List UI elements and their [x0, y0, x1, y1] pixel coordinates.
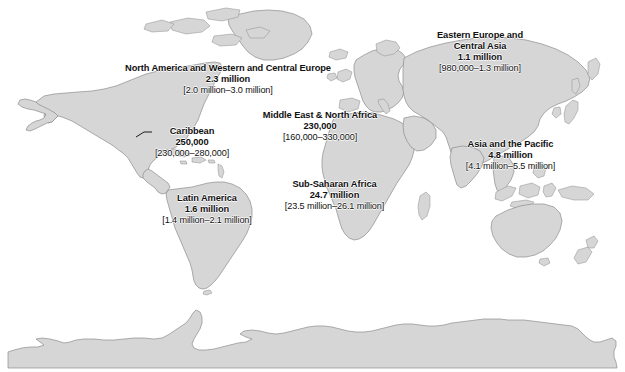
landmass-new-zealand-south	[574, 247, 592, 264]
region-value: 1.1 million	[396, 52, 564, 63]
region-name: Asia and the Pacific	[428, 139, 593, 150]
landmass-antarctica	[8, 310, 617, 368]
region-name: North America and Western and Central Eu…	[108, 63, 348, 74]
region-range: [2.0 million–3.0 million]	[108, 85, 348, 96]
region-name: Caribbean	[126, 126, 258, 137]
region-name-line1: Eastern Europe and	[396, 30, 564, 41]
landmass-madagascar	[418, 192, 430, 220]
landmass-borneo	[519, 183, 540, 198]
landmass-puerto-rico	[208, 160, 215, 163]
landmass-sulawesi	[543, 183, 556, 197]
region-range: [980,000–1.3 million]	[396, 63, 564, 74]
region-range: [1.4 million–2.1 million]	[134, 215, 280, 226]
region-range: [230,000–280,000]	[126, 148, 258, 159]
region-value: 230,000	[240, 121, 400, 132]
region-label-north-america-western-central-europe: North America and Western and Central Eu…	[108, 63, 348, 96]
landmass-central-america	[143, 169, 170, 194]
region-name: Middle East & North Africa	[240, 110, 400, 121]
region-label-latin-america: Latin America 1.6 million [1.4 million–2…	[134, 193, 280, 226]
landmass-iceland	[329, 49, 348, 60]
landmass-japan	[564, 100, 578, 124]
landmass-tasmania	[539, 258, 550, 266]
landmass-new-guinea	[558, 186, 594, 200]
region-name-line2: Central Asia	[396, 41, 564, 52]
region-name: Sub-Saharan Africa	[253, 179, 416, 190]
landmass-arctic-island-4	[144, 20, 174, 32]
region-label-middle-east-north-africa: Middle East & North Africa 230,000 [160,…	[240, 110, 400, 143]
landmass-kamchatka	[588, 58, 600, 80]
region-label-caribbean: Caribbean 250,000 [230,000–280,000]	[126, 126, 258, 159]
region-range: [160,000–330,000]	[240, 132, 400, 143]
landmass-korea	[552, 107, 561, 118]
landmass-australia	[491, 204, 562, 257]
landmass-arctic-island-1	[170, 18, 210, 34]
region-label-eastern-europe-central-asia: Eastern Europe and Central Asia 1.1 mill…	[396, 30, 564, 74]
landmass-tierra-del-fuego	[203, 290, 212, 295]
region-name: Latin America	[134, 193, 280, 204]
region-value: 2.3 million	[108, 74, 348, 85]
landmass-lesser-antilles	[218, 164, 224, 178]
region-value: 1.6 million	[134, 204, 280, 215]
landmass-new-zealand-north	[586, 236, 598, 248]
region-range: [4.1 million–5.5 million]	[428, 161, 593, 172]
region-label-asia-and-the-pacific: Asia and the Pacific 4.8 million [4.1 mi…	[428, 139, 593, 172]
landmass-jamaica	[180, 161, 187, 164]
region-value: 250,000	[126, 137, 258, 148]
landmass-greenland	[228, 10, 312, 60]
world-map-infographic: North America and Western and Central Eu…	[0, 0, 625, 372]
region-value: 4.8 million	[428, 150, 593, 161]
